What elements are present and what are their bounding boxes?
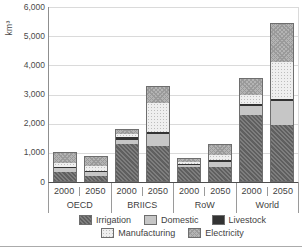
stacked-bar-oecd-2050 [84,156,108,182]
y-tick-label: 0 [0,177,45,188]
legend-item-manufacturing: Manufacturing [101,228,175,238]
segment-irrigation [271,125,293,181]
plot-area [48,7,299,183]
segment-manufacturing [271,62,293,99]
x-year-label: 2000 [174,183,204,199]
x-group-row: 20002050RoW [173,183,236,213]
x-group-oecd: 20002050OECD [49,183,111,213]
segment-domestic [271,101,293,125]
segment-domestic [147,134,169,146]
stacked-bar-briics-2050 [146,86,170,182]
x-group-label: World [237,199,299,213]
y-tick-label: 6,000 [0,2,45,13]
bar-group-row [177,144,232,182]
legend-label-livestock: Livestock [229,215,267,225]
x-year-label: 2000 [49,183,79,199]
segment-irrigation [209,167,231,181]
x-group-label: OECD [49,199,111,213]
segment-irrigation [85,176,107,181]
stacked-bar-row-2050 [208,144,232,182]
bar-group-briics [115,86,170,182]
stacked-bar-world-2000 [239,78,263,182]
x-year-label: 2050 [205,183,235,199]
legend-row: IrrigationDomesticLivestock [43,215,302,225]
livestock-swatch-icon [212,215,225,225]
segment-irrigation [116,144,138,181]
x-group-label: BRIICS [112,199,174,213]
irrigation-swatch-icon [79,215,92,225]
y-tick-label: 5,000 [0,31,45,42]
segment-domestic [240,106,262,115]
legend-item-irrigation: Irrigation [79,215,131,225]
y-tick-label: 1,000 [0,147,45,158]
segment-electricity [85,157,107,166]
manufacturing-swatch-icon [101,228,114,238]
electricity-swatch-icon [188,228,201,238]
segment-electricity [209,145,231,154]
legend-label-domestic: Domestic [161,215,199,225]
y-tick-label: 4,000 [0,60,45,71]
segment-manufacturing [240,95,262,103]
segment-irrigation [240,115,262,181]
x-year-row: 20002050 [237,183,299,199]
segment-irrigation [147,146,169,181]
stacked-bar-world-2050 [270,23,294,182]
segment-irrigation [178,167,200,181]
x-year-label: 2050 [143,183,173,199]
bar-groups [49,7,298,182]
x-year-row: 20002050 [174,183,236,199]
legend-item-electricity: Electricity [188,228,244,238]
x-year-label: 2050 [268,183,298,199]
segment-electricity [147,87,169,103]
x-year-label: 2000 [237,183,267,199]
domestic-swatch-icon [144,215,157,225]
segment-manufacturing [147,103,169,132]
segment-electricity [240,79,262,95]
bar-group-world [239,23,294,182]
stacked-bar-row-2000 [177,158,201,182]
x-group-briics: 20002050BRIICS [111,183,174,213]
segment-irrigation [54,172,76,181]
legend-label-manufacturing: Manufacturing [118,228,175,238]
y-axis-tick-labels: 01,0002,0003,0004,0005,0006,000 [0,0,45,190]
x-group-world: 20002050World [236,183,299,213]
x-year-row: 20002050 [112,183,174,199]
legend-item-livestock: Livestock [212,215,267,225]
legend-row: ManufacturingElectricity [43,228,302,238]
x-year-row: 20002050 [49,183,111,199]
legend-label-electricity: Electricity [205,228,244,238]
segment-electricity [271,24,293,62]
stacked-bar-briics-2000 [115,129,139,182]
y-tick-label: 2,000 [0,118,45,129]
x-year-label: 2050 [80,183,110,199]
segment-electricity [54,153,76,163]
bar-group-oecd [53,152,108,182]
x-year-label: 2000 [112,183,142,199]
x-axis-labels: 20002050OECD20002050BRIICS20002050RoW200… [48,183,299,213]
stacked-bar-oecd-2000 [53,152,77,182]
legend-label-irrigation: Irrigation [96,215,131,225]
y-tick-label: 3,000 [0,89,45,100]
x-group-label: RoW [174,199,236,213]
bottom-rule [0,246,302,247]
legend: IrrigationDomesticLivestockManufacturing… [43,215,302,241]
legend-item-domestic: Domestic [144,215,199,225]
water-demand-stacked-bar-chart: km³ 01,0002,0003,0004,0005,0006,000 2000… [0,0,302,250]
